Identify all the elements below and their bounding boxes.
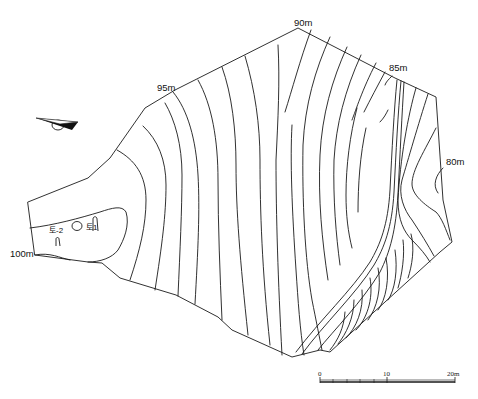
contour	[198, 80, 222, 320]
contour	[173, 92, 199, 304]
scale-label-20m: 20m	[447, 371, 459, 378]
elevation-label-95m: 95m	[157, 83, 175, 93]
contour	[398, 88, 430, 262]
topographic-map	[0, 0, 478, 399]
grave-2-icon	[56, 238, 60, 247]
contour	[319, 47, 347, 280]
elevation-label-85m: 85m	[389, 63, 407, 73]
elevation-label-80m: 80m	[446, 157, 464, 167]
north-arrow-icon	[36, 118, 78, 130]
elevation-label-90m: 90m	[294, 18, 312, 28]
elevation-label-100m: 100m	[10, 249, 34, 259]
survey-boundary	[28, 28, 452, 357]
contour	[245, 56, 270, 345]
contour	[143, 126, 166, 290]
contour-80m	[412, 128, 450, 240]
scale-label-10: 10	[383, 371, 390, 378]
contour	[222, 67, 248, 335]
contour	[285, 30, 311, 112]
road-edge	[302, 81, 401, 354]
scale-label-0: 0	[318, 371, 322, 378]
contour	[276, 45, 282, 355]
pit-circle-icon	[72, 222, 82, 231]
contour	[364, 72, 385, 112]
contour	[303, 37, 330, 350]
contour	[165, 103, 182, 296]
contour	[117, 150, 146, 280]
feature-label-1: 토1	[86, 224, 97, 232]
feature-label-2: 토-2	[49, 227, 63, 235]
